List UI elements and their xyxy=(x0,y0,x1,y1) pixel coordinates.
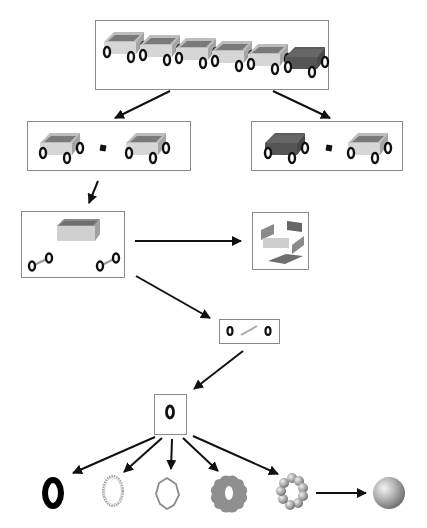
arrow-train-to-pair-light xyxy=(115,91,170,118)
node-axle xyxy=(220,320,280,344)
arrow-pair-to-parts xyxy=(89,181,98,203)
diagram-canvas xyxy=(0,0,427,528)
arrow-train-to-pair-dark xyxy=(273,91,330,118)
node-body-panels xyxy=(253,213,309,270)
node-pair-light xyxy=(28,122,191,171)
node-wheel-spheres xyxy=(276,473,308,510)
node-pair-dark xyxy=(252,122,403,171)
arrow-axle-to-wheel xyxy=(194,351,243,389)
node-wagon-parts xyxy=(22,212,125,278)
node-wheel-solid xyxy=(45,480,61,506)
arrow-parts-to-axle xyxy=(136,276,210,318)
node-train xyxy=(96,21,329,90)
node-wheel-polygon xyxy=(156,478,179,509)
node-wheel-gear xyxy=(211,475,247,512)
arrow-wheel-to-gear xyxy=(183,438,218,471)
node-sphere xyxy=(373,477,405,509)
node-wheel-outline-dotted xyxy=(103,476,123,506)
arrow-wheel-to-spheres xyxy=(193,436,278,474)
arrow-wheel-to-polygon xyxy=(171,439,172,469)
node-wheel xyxy=(155,395,187,435)
